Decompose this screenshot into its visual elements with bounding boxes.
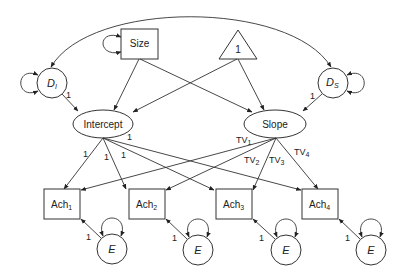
constant-to-slope-path	[238, 59, 264, 110]
svg-text:1: 1	[104, 152, 109, 162]
ach4-node: Ach4	[302, 189, 338, 219]
slope-to-ach2	[166, 138, 276, 190]
error2-node: E 1	[166, 219, 213, 265]
intercept-to-ach3	[103, 138, 214, 190]
disturbance-intercept-node: DI	[21, 68, 67, 98]
svg-text:1: 1	[66, 90, 71, 100]
svg-text:E: E	[108, 243, 116, 255]
svg-text:1: 1	[83, 149, 88, 159]
svg-text:1: 1	[310, 91, 315, 101]
svg-text:1: 1	[259, 233, 264, 243]
ach2-node: Ach2	[129, 189, 165, 219]
size-to-slope-path	[140, 59, 252, 112]
svg-text:TV3: TV3	[269, 155, 285, 166]
ach3-node: Ach3	[216, 189, 252, 219]
slope-node: Slope	[244, 110, 306, 138]
ach1-node: Ach1	[44, 189, 80, 219]
di-variance-loop	[21, 73, 38, 93]
svg-text:1: 1	[121, 150, 126, 160]
constant-triangle: 1	[219, 30, 257, 59]
intercept-node: Intercept	[73, 110, 133, 138]
svg-text:1: 1	[172, 233, 177, 243]
covariance-arc	[51, 17, 331, 67]
svg-text:Slope: Slope	[262, 119, 288, 130]
svg-text:1: 1	[127, 132, 132, 142]
svg-text:TV1: TV1	[236, 135, 252, 146]
error1-node: E 1	[81, 218, 127, 264]
ds-variance-loop	[347, 73, 364, 93]
size-variance-loop	[103, 35, 121, 52]
svg-text:E: E	[367, 244, 375, 256]
constant-to-intercept-path	[133, 59, 237, 112]
size-node: Size	[103, 29, 158, 59]
error3-node: E 1	[253, 219, 301, 265]
svg-text:TV2: TV2	[244, 155, 260, 166]
svg-text:TV4: TV4	[294, 147, 310, 158]
svg-text:E: E	[282, 244, 290, 256]
intercept-to-ach1	[64, 138, 103, 189]
svg-text:Size: Size	[130, 38, 150, 49]
error4-node: E 1	[339, 219, 386, 265]
disturbance-slope-node: DS	[318, 68, 364, 98]
path-diagram: Size 1 DI DS Intercept Slope 1 1 1 1 1 1	[0, 0, 394, 277]
svg-text:Intercept: Intercept	[84, 119, 123, 130]
svg-text:E: E	[194, 244, 202, 256]
svg-text:1: 1	[235, 44, 241, 55]
svg-text:1: 1	[86, 232, 91, 242]
svg-text:1: 1	[345, 233, 350, 243]
size-to-intercept-path	[114, 59, 139, 110]
